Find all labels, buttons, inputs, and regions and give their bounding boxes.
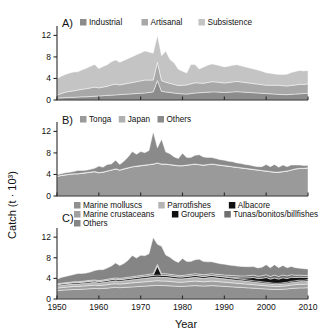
legend-label: Artisanal [151, 18, 183, 27]
y-tick-label: 0 [46, 191, 51, 201]
legend-swatch-icon [80, 19, 87, 26]
legend-label: Others [167, 115, 192, 124]
legend-label: Others [83, 219, 108, 228]
legend-label: Marine crustaceans [83, 210, 154, 219]
y-tick-label: 12 [42, 232, 52, 242]
legend-swatch-icon [80, 116, 87, 123]
legend-row: Marine crustaceansGroupersTunas/bonitos/… [74, 210, 318, 219]
y-tick-label: 12 [42, 30, 52, 40]
panel-letter-a: A) [62, 17, 73, 29]
legend-swatch-icon [158, 202, 165, 209]
x-axis-title: Year [175, 318, 198, 330]
x-tick-label: 1990 [215, 302, 234, 312]
panel-letter-b: B) [62, 114, 73, 126]
figure-container: A)B)C)IndustrialArtisanalSubsistenceTong… [0, 0, 325, 331]
y-tick-label: 0 [46, 95, 51, 105]
legend-row: TongaJapanOthers [80, 115, 191, 124]
legend-swatch-icon [198, 19, 205, 26]
legend-label: Tonga [89, 115, 112, 124]
y-tick-label: 12 [42, 126, 52, 136]
x-tick-label: 1950 [48, 302, 67, 312]
stacked-area-chart: A)B)C)IndustrialArtisanalSubsistenceTong… [0, 0, 325, 331]
x-tick-label: 1960 [89, 302, 108, 312]
legend-label: Subsistence [207, 18, 252, 27]
legend-row: Marine molluscsParrotfishesAlbacore [74, 201, 271, 210]
y-tick-label: 8 [46, 148, 51, 158]
legend-row: IndustrialArtisanalSubsistence [80, 18, 252, 27]
y-tick-label: 8 [46, 253, 51, 263]
legend-swatch-icon [74, 220, 81, 227]
y-tick-label: 4 [46, 73, 51, 83]
y-axis-title: Catch (t · 10³) [6, 171, 18, 239]
legend-swatch-icon [158, 116, 165, 123]
y-tick-label: 4 [46, 273, 51, 283]
legend-swatch-icon [224, 211, 231, 218]
legend-label: Albacore [238, 201, 271, 210]
legend-label: Tunas/bonitos/billfishes [233, 210, 318, 219]
legend-swatch-icon [74, 202, 81, 209]
x-tick-label: 2010 [299, 302, 318, 312]
panel-letter-c: C) [62, 212, 74, 224]
y-tick-label: 8 [46, 52, 51, 62]
y-tick-label: 4 [46, 169, 51, 179]
legend-label: Marine molluscs [83, 201, 142, 210]
legend-swatch-icon [74, 211, 81, 218]
legend-label: Industrial [89, 18, 122, 27]
legend-label: Japan [128, 115, 151, 124]
x-tick-label: 1980 [173, 302, 192, 312]
legend-label: Parrotfishes [167, 201, 211, 210]
x-tick-label: 1970 [131, 302, 150, 312]
legend-swatch-icon [142, 19, 149, 26]
legend-swatch-icon [172, 211, 179, 218]
legend-swatch-icon [229, 202, 236, 209]
x-tick-label: 2000 [257, 302, 276, 312]
legend-swatch-icon [119, 116, 126, 123]
legend-label: Groupers [181, 210, 215, 219]
